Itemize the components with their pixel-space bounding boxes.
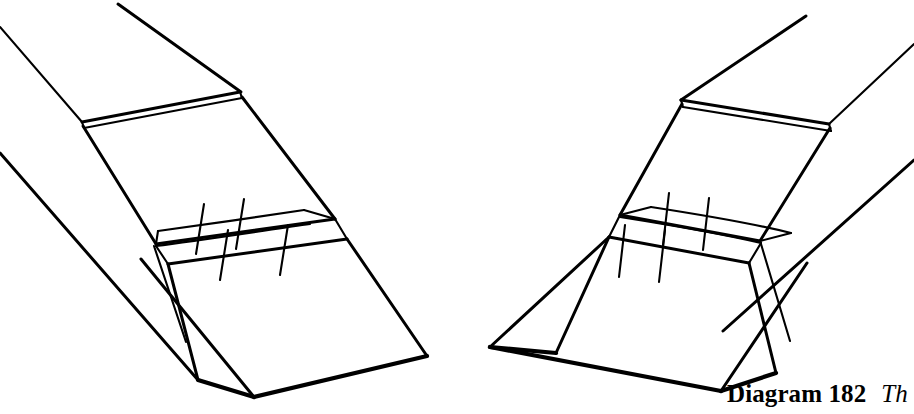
left-upper-panel	[83, 97, 335, 244]
left-lower-flap	[168, 239, 427, 397]
diagram-caption: Diagram 182Th	[727, 381, 908, 406]
diagram-caption-text: Th	[881, 380, 907, 407]
right-base-plane	[490, 237, 807, 391]
left-figure	[0, 4, 427, 397]
right-strip-edges	[681, 16, 914, 331]
right-top-seam	[681, 100, 831, 131]
figure-canvas	[0, 0, 914, 414]
left-strip-edges	[0, 4, 241, 380]
diagram-caption-label: Diagram 182	[727, 380, 866, 407]
right-figure	[490, 16, 914, 391]
diagram-page: Diagram 182Th	[0, 0, 914, 414]
left-top-seam	[82, 92, 242, 128]
left-pleated-band	[156, 199, 347, 280]
